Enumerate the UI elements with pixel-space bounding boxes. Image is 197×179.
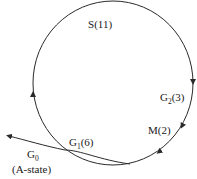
label-s-phase: S(11) (88, 18, 112, 31)
label-g2-phase: G2(3) (160, 91, 185, 106)
label-a-state: (A-state) (12, 163, 51, 176)
label-m-phase: M(2) (148, 124, 171, 137)
label-g1-phase: G1(6) (69, 136, 94, 151)
cell-cycle-diagram: S(11) G2(3) M(2) G1(6) G0 (A-state) (0, 0, 197, 179)
cycle-circle (33, 1, 193, 165)
label-g0: G0 (27, 148, 39, 163)
